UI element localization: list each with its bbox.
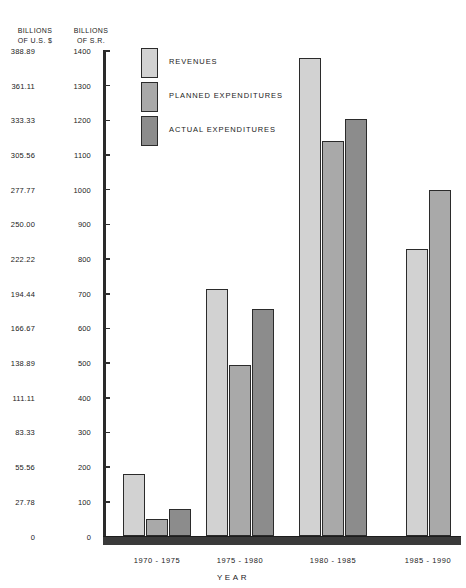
y-axis-tick [105, 189, 110, 191]
bar[interactable] [345, 119, 367, 537]
y-axis-tick [105, 224, 110, 226]
y-axis-tick [105, 501, 110, 503]
y-axis-tick [105, 397, 110, 399]
x-axis-category-label: 1985 - 1990 [405, 556, 452, 565]
bar[interactable] [169, 509, 191, 537]
bar[interactable] [322, 141, 344, 536]
bar[interactable] [206, 289, 228, 537]
bar[interactable] [146, 519, 168, 536]
bar[interactable] [406, 249, 428, 537]
y-axis-tick [105, 432, 110, 434]
y-axis-tick [105, 154, 110, 156]
bar[interactable] [429, 190, 451, 537]
y-axis-tick [105, 258, 110, 260]
bar[interactable] [252, 309, 274, 536]
y-axis-tick [105, 466, 110, 468]
bar[interactable] [229, 365, 251, 537]
chart-page: BILLIONS OF U.S. $ BILLIONS OF S.R. 388.… [0, 0, 466, 588]
x-axis-category-label: 1980 - 1985 [310, 556, 357, 565]
y-axis-tick [105, 293, 110, 295]
bar[interactable] [123, 474, 145, 536]
x-axis-title: YEAR [0, 573, 466, 582]
x-axis-category-label: 1970 - 1975 [134, 556, 181, 565]
y-axis-tick [105, 85, 110, 87]
bar[interactable] [299, 58, 321, 537]
y-axis-tick [105, 328, 110, 330]
y-axis-tick [105, 362, 110, 364]
plot-area [0, 0, 466, 588]
y-axis-tick [105, 120, 110, 122]
y-axis-tick [105, 50, 110, 52]
x-axis-category-label: 1975 - 1980 [217, 556, 264, 565]
